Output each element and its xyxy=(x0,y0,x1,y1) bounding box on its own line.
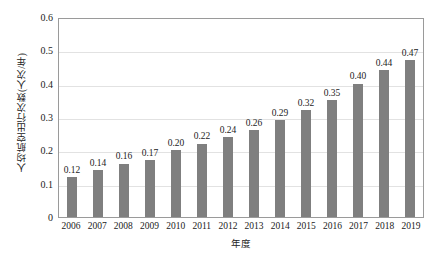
bar-slot: 0.44 xyxy=(371,19,397,217)
bar-slot: 0.32 xyxy=(293,19,319,217)
y-axis-tick-label: 0.4 xyxy=(41,80,54,90)
bar-value-label: 0.32 xyxy=(298,99,315,109)
x-axis-tick-label: 2018 xyxy=(372,222,398,232)
x-axis-tick-label: 2019 xyxy=(398,222,424,232)
bar-value-label: 0.40 xyxy=(350,72,367,82)
bar: 0.12 xyxy=(67,177,77,217)
y-axis-tick-label: 0 xyxy=(48,213,53,223)
bar: 0.17 xyxy=(145,160,155,217)
bar: 0.32 xyxy=(301,110,311,217)
y-axis-tick-label: 0.2 xyxy=(41,146,54,156)
bar-value-label: 0.16 xyxy=(116,152,133,162)
bar-slot: 0.16 xyxy=(111,19,137,217)
bar-slot: 0.12 xyxy=(59,19,85,217)
bar: 0.47 xyxy=(405,60,415,217)
bar-slot: 0.29 xyxy=(267,19,293,217)
bar: 0.26 xyxy=(249,130,259,217)
plot-area: 0.120.140.160.170.200.220.240.260.290.32… xyxy=(58,18,424,218)
bar: 0.24 xyxy=(223,137,233,217)
bar-slot: 0.24 xyxy=(215,19,241,217)
y-axis-tick-label: 0.5 xyxy=(41,46,54,56)
y-axis-tick-label: 0.1 xyxy=(41,180,54,190)
x-axis-tick-label: 2014 xyxy=(267,222,293,232)
bar: 0.22 xyxy=(197,144,207,217)
x-axis-tick-label: 2015 xyxy=(293,222,319,232)
bar: 0.40 xyxy=(353,84,363,217)
bar: 0.44 xyxy=(379,70,389,217)
bar-value-label: 0.44 xyxy=(376,59,393,69)
bar: 0.35 xyxy=(327,100,337,217)
x-axis-tick-label: 2011 xyxy=(189,222,215,232)
bar-slot: 0.20 xyxy=(163,19,189,217)
x-axis-tick-label: 2007 xyxy=(84,222,110,232)
x-axis-tick-label: 2012 xyxy=(215,222,241,232)
x-axis-tick-label: 2008 xyxy=(110,222,136,232)
bar-value-label: 0.24 xyxy=(220,126,237,136)
bar-chart-figure: 人均航空出行次数(人次/年) 0.60.50.40.30.20.10 0.120… xyxy=(0,0,441,273)
bar-value-label: 0.12 xyxy=(64,166,81,176)
bar-value-label: 0.20 xyxy=(168,139,185,149)
bar-slot: 0.22 xyxy=(189,19,215,217)
bar-slot: 0.35 xyxy=(319,19,345,217)
bar-value-label: 0.14 xyxy=(90,159,107,169)
x-axis-tick-labels: 2006200720082009201020112012201320142015… xyxy=(58,222,424,232)
bar: 0.20 xyxy=(171,150,181,217)
x-axis-tick-label: 2010 xyxy=(163,222,189,232)
bar-slot: 0.40 xyxy=(345,19,371,217)
bar-series: 0.120.140.160.170.200.220.240.260.290.32… xyxy=(59,19,423,217)
bar: 0.16 xyxy=(119,164,129,217)
x-axis-tick-label: 2013 xyxy=(241,222,267,232)
x-axis-tick-label: 2009 xyxy=(136,222,162,232)
y-axis-tick-labels: 0.60.50.40.30.20.10 xyxy=(28,0,56,273)
x-axis-tick-label: 2016 xyxy=(319,222,345,232)
bar-slot: 0.17 xyxy=(137,19,163,217)
x-axis-tick-label: 2006 xyxy=(58,222,84,232)
bar: 0.14 xyxy=(93,170,103,217)
y-axis-tick-label: 0.6 xyxy=(41,13,54,23)
x-axis-tick-label: 2017 xyxy=(346,222,372,232)
bar-slot: 0.47 xyxy=(397,19,423,217)
bar-slot: 0.26 xyxy=(241,19,267,217)
bar-value-label: 0.35 xyxy=(324,89,341,99)
y-axis-tick-label: 0.3 xyxy=(41,113,54,123)
y-axis-title-text: 人均航空出行次数(人次/年) xyxy=(18,53,28,172)
bar-value-label: 0.47 xyxy=(402,49,419,59)
bar-value-label: 0.26 xyxy=(246,119,263,129)
bar-value-label: 0.29 xyxy=(272,109,289,119)
x-axis-title: 年度 xyxy=(58,240,424,250)
bar-value-label: 0.17 xyxy=(142,149,159,159)
bar-value-label: 0.22 xyxy=(194,132,211,142)
bar: 0.29 xyxy=(275,120,285,217)
bar-slot: 0.14 xyxy=(85,19,111,217)
